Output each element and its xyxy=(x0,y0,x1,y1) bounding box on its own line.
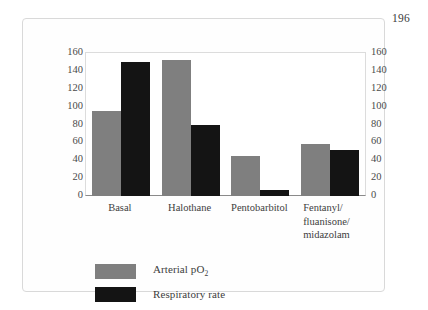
bar xyxy=(191,125,220,197)
y-tick-right-tick-0: 0 xyxy=(371,189,376,201)
y-tick-left-tick-60: 60 xyxy=(73,135,84,147)
bar-group xyxy=(231,53,289,196)
y-tick-left-tick-80: 80 xyxy=(73,118,84,130)
bar xyxy=(121,62,150,196)
bar-group xyxy=(92,53,150,196)
bar xyxy=(162,60,191,196)
y-tick-right-tick-140: 140 xyxy=(371,64,387,76)
y-tick-left-tick-100: 100 xyxy=(67,100,83,112)
legend-swatch xyxy=(95,287,136,302)
y-tick-right-tick-80: 80 xyxy=(371,118,382,130)
page-number: 196 xyxy=(392,12,410,24)
y-tick-left-tick-20: 20 xyxy=(73,171,84,183)
bar xyxy=(330,150,359,196)
y-tick-left-tick-40: 40 xyxy=(73,153,84,165)
bar xyxy=(260,190,289,196)
x-axis-category-labels: BasalHalothanePentobarbitolFentanyl/ flu… xyxy=(85,201,385,247)
bar-group xyxy=(301,53,359,196)
y-tick-right-tick-160: 160 xyxy=(371,46,387,58)
y-tick-right-tick-120: 120 xyxy=(371,82,387,94)
y-tick-right-tick-60: 60 xyxy=(371,135,382,147)
y-tick-right-tick-40: 40 xyxy=(371,153,382,165)
legend-label: Arterial pO2 xyxy=(153,263,208,278)
bar-series-container xyxy=(86,53,365,196)
chart-legend: Arterial pO2Respiratory rate xyxy=(95,262,225,308)
y-tick-right-tick-100: 100 xyxy=(371,100,387,112)
y-tick-right-tick-20: 20 xyxy=(371,171,382,183)
legend-label: Respiratory rate xyxy=(153,288,225,300)
y-axis-left: 160140120100806040200 xyxy=(53,52,83,196)
y-tick-left-tick-0: 0 xyxy=(78,189,83,201)
legend-item: Arterial pO2 xyxy=(95,262,225,280)
bar-group xyxy=(162,53,220,196)
figure-frame: 160140120100806040200 160140120100806040… xyxy=(22,18,385,292)
y-tick-left-tick-160: 160 xyxy=(67,46,83,58)
legend-swatch xyxy=(95,264,136,279)
y-tick-left-tick-120: 120 xyxy=(67,82,83,94)
x-axis-label: Pentobarbitol xyxy=(214,201,304,215)
y-tick-left-tick-140: 140 xyxy=(67,64,83,76)
bar xyxy=(231,156,260,196)
legend-item: Respiratory rate xyxy=(95,285,225,303)
bar xyxy=(301,144,330,196)
bar xyxy=(92,111,121,196)
x-axis-label: Fentanyl/ fluanisone/ midazolam xyxy=(303,201,350,242)
y-axis-right: 160140120100806040200 xyxy=(371,52,401,196)
